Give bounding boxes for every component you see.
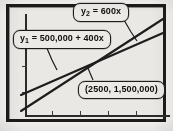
x-axis [25, 115, 170, 117]
annotation-equation-y2: y2 = 600x [73, 3, 129, 22]
annotation-equation-y1: y1 = 500,000 + 400x [13, 30, 111, 49]
x-axis-tick [108, 111, 109, 116]
annotation-intersection-point: (2500, 1,500,000) [78, 81, 165, 99]
x-axis-tick [80, 111, 81, 116]
y-axis-tick [22, 66, 27, 67]
annotation-y1-rest: = 500,000 + 400x [29, 33, 104, 43]
annotation-y2-rest: = 600x [90, 6, 121, 16]
figure-graph-linear-system: y2 = 600x y1 = 500,000 + 400x (2500, 1,5… [0, 0, 173, 131]
x-axis-tick [136, 111, 137, 116]
y-axis-tick [22, 92, 27, 93]
x-axis-tick [52, 111, 53, 116]
